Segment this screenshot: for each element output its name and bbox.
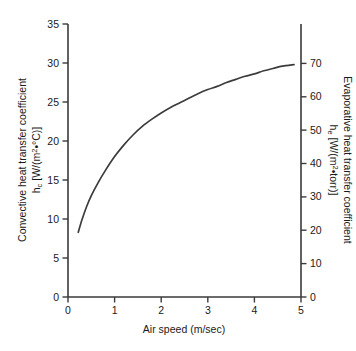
- x-tick-label-3: 3: [205, 304, 211, 316]
- right-tick-label-70: 70: [310, 57, 322, 69]
- left-axis-ticks: [63, 24, 69, 297]
- x-axis-title: Air speed (m/sec): [143, 323, 225, 335]
- right-tick-label-60: 60: [310, 90, 322, 102]
- left-tick-label-35: 35: [47, 18, 59, 30]
- left-axis-title-line1: Convective heat transfer coefficient: [16, 78, 28, 242]
- right-axis-tick-labels: 0 10 20 30 40 50 60 70: [310, 57, 322, 303]
- left-tick-label-5: 5: [53, 252, 59, 264]
- right-axis-title-line2: he [W/(m2•torr)]: [326, 125, 341, 196]
- right-tick-label-30: 30: [310, 190, 322, 202]
- left-tick-label-25: 25: [47, 96, 59, 108]
- bottom-axis-tick-labels: 0 1 2 3 4 5: [65, 304, 304, 316]
- x-tick-label-1: 1: [112, 304, 118, 316]
- left-axis-title-line2: hc [W/(m2•°C)]: [30, 127, 45, 194]
- x-tick-label-4: 4: [251, 304, 257, 316]
- right-tick-label-50: 50: [310, 124, 322, 136]
- x-tick-label-0: 0: [65, 304, 71, 316]
- left-unit-open: [W/(m: [30, 153, 42, 184]
- right-tick-label-20: 20: [310, 224, 322, 236]
- left-tick-label-20: 20: [47, 135, 59, 147]
- left-tick-label-10: 10: [47, 213, 59, 225]
- chart-figure: 0 5 10 15 20 25 30 35 0 10 20 30 40 50: [0, 0, 356, 351]
- right-tick-label-40: 40: [310, 157, 322, 169]
- left-tick-label-30: 30: [47, 57, 59, 69]
- bottom-axis-ticks: [68, 297, 301, 303]
- right-axis-title-line1: Evaporative heat transfer coefficient: [342, 76, 354, 243]
- left-tick-label-15: 15: [47, 174, 59, 186]
- right-tick-label-10: 10: [310, 257, 322, 269]
- left-axis-tick-labels: 0 5 10 15 20 25 30 35: [47, 18, 59, 303]
- right-unit-tail: •torr)]: [328, 170, 340, 196]
- right-unit-open: [W/(m: [328, 135, 340, 166]
- heat-transfer-curve: [78, 65, 294, 233]
- left-unit-tail: •°C)]: [30, 127, 42, 149]
- right-axis-ticks: [301, 63, 307, 297]
- svg-text:hc [W/(m2•°C)]: hc [W/(m2•°C)]: [30, 127, 45, 194]
- svg-text:he [W/(m2•torr)]: he [W/(m2•torr)]: [326, 125, 341, 196]
- air-speed-heat-transfer-chart: 0 5 10 15 20 25 30 35 0 10 20 30 40 50: [0, 0, 356, 351]
- right-tick-label-0: 0: [310, 291, 316, 303]
- x-tick-label-5: 5: [298, 304, 304, 316]
- left-tick-label-0: 0: [53, 291, 59, 303]
- x-tick-label-2: 2: [158, 304, 164, 316]
